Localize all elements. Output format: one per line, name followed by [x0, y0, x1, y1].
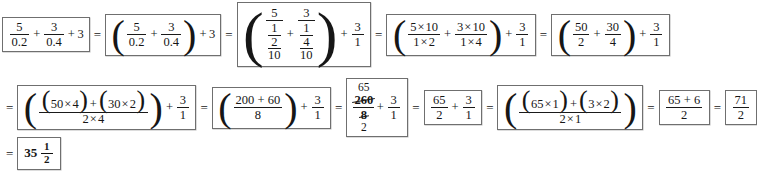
fraction-65-over-2: 65 2 [431, 94, 448, 122]
fraction-3-over-1: 3 1 [388, 94, 400, 122]
numerator: (65×1)+(3×2) [519, 89, 621, 112]
step-box-reduced-fraction-sum: 65 2 + 3 1 [424, 90, 483, 126]
fraction-5-over-0.2: 5 0.2 [127, 21, 147, 49]
denominator: 1 2 10 [266, 21, 283, 62]
numerator: (50×4)+(30×2) [39, 89, 147, 112]
factor-b: 1 [575, 112, 581, 126]
times-sign: × [466, 35, 475, 49]
paren-close: ) [149, 91, 163, 125]
paren-close: ) [284, 91, 298, 125]
plus-sign: + [374, 100, 386, 115]
paren-close: ) [623, 18, 637, 52]
plus-sign: + [449, 100, 461, 115]
numerator: 71 [733, 94, 750, 107]
fraction-expanded-numerator-over-2x1: (65×1)+(3×2) 2×1 [519, 89, 621, 126]
equals-sign: = [196, 101, 211, 114]
fraction-expanded-numerator-over-2x4: (50×4)+(30×2) 2×4 [39, 89, 147, 126]
numerator: 3 [49, 21, 59, 34]
denominator: 1 [389, 108, 399, 121]
plus-sign: + [197, 27, 209, 42]
factor-a: 2 [83, 112, 89, 126]
step-box-cancellation: 65 260 8 2 + 3 1 [346, 78, 408, 137]
solution-row-2: = ( (50×4)+(30×2) 2×4 ) + 3 [2, 78, 757, 137]
equals-sign: = [643, 101, 658, 114]
denominator: 1×2 [411, 35, 437, 48]
plus-sign: + [338, 27, 350, 42]
equals-sign: = [2, 147, 17, 160]
paren-close: ) [183, 18, 197, 52]
fractional-part: 1 2 [41, 141, 53, 166]
denominator: 2 [736, 108, 746, 121]
paren-open: ( [521, 89, 531, 111]
nested-denominator: 4 [303, 36, 309, 49]
denominator: 0.2 [127, 35, 147, 48]
equals-sign: = [2, 101, 17, 114]
paren-open: ( [503, 91, 517, 125]
denominator-cancel-value: 2 [361, 122, 367, 134]
denominator: 1 [464, 108, 474, 121]
nested-denominator: 2 [271, 36, 277, 49]
numerator: 3 [166, 21, 176, 34]
numerator: 3 [651, 21, 661, 34]
plus-sign: + [503, 27, 515, 42]
paren-close: ) [79, 89, 89, 111]
denominator: 2×1 [558, 113, 584, 126]
times-sign: × [566, 112, 575, 126]
factor-a: 30 [108, 97, 121, 111]
addend-term: 3 [209, 27, 215, 42]
plus-sign: + [568, 97, 578, 111]
plus-sign: + [591, 27, 603, 42]
equals-sign: = [482, 101, 497, 114]
denominator: 1 [517, 35, 527, 48]
paren-close: ) [488, 18, 502, 52]
paren-open: ( [98, 89, 108, 111]
paren-open: ( [41, 89, 51, 111]
numerator: 65 [431, 94, 448, 107]
plus-sign: + [442, 27, 454, 42]
plus-sign: + [88, 97, 98, 111]
step-box-decimals-as-fractions: ( 5 1 2 10 + [237, 2, 371, 67]
factor-a: 1 [413, 35, 419, 49]
times-sign: × [594, 97, 603, 111]
factor-a: 2 [560, 112, 566, 126]
paren-open: ( [23, 91, 37, 125]
numerator: 3×10 [455, 21, 487, 34]
numerator: 5 [269, 7, 279, 20]
continued-fraction-5-over-2-tenths: 5 1 2 10 [266, 7, 283, 62]
fraction-3-over-1: 3 1 [463, 94, 475, 122]
times-sign: × [89, 112, 98, 126]
nested-fraction: 1 4 10 [300, 22, 313, 62]
step-box-improper-fraction: 71 2 [725, 90, 757, 126]
numerator: 5×10 [408, 21, 440, 34]
denominator: 0.2 [10, 35, 30, 48]
fraction-50-over-2: 50 2 [573, 21, 590, 49]
solution-row-1: 5 0.2 + 3 0.4 + 3 = ( 5 [2, 2, 670, 67]
solution-row-3: = 35 1 2 [2, 137, 61, 170]
factor-a: 65 [531, 97, 544, 111]
factor-b: 2 [429, 35, 435, 49]
plus-sign: + [31, 27, 43, 42]
nested-fraction: 1 2 10 [268, 22, 281, 62]
denominator: 2×4 [81, 113, 107, 126]
paren-open: ( [243, 8, 265, 61]
plus-sign: + [284, 27, 296, 42]
nested-numerator: 1 [303, 22, 309, 35]
numerator: 200 + 60 [234, 94, 283, 107]
equals-sign: = [408, 101, 423, 114]
numerator: 3 [178, 94, 188, 107]
equals-sign: = [90, 28, 105, 41]
factor-b: 10 [472, 20, 485, 34]
fraction-65plus6-over-2: 65 + 6 2 [666, 94, 702, 122]
step-box-cross-multiply-expansion: ( (65×1)+(3×2) 2×1 ) [497, 85, 643, 130]
paren-open: ( [392, 18, 406, 52]
step-box-final-mixed-number: 35 1 2 [17, 137, 61, 170]
fraction-200plus60-over-8: 200 + 60 8 [234, 94, 283, 122]
fraction-3-over-1: 3 1 [352, 21, 364, 49]
factor-b: 4 [476, 35, 482, 49]
step-box-grouped-expression: ( 5 0.2 + 3 0.4 ) + 3 [105, 14, 221, 56]
denominator-original-struck: 8 [360, 109, 368, 122]
fraction-5-over-0.2: 5 0.2 [10, 21, 30, 49]
addend-term: 3 [77, 27, 83, 42]
denominator: 2 [679, 108, 689, 121]
numerator: 65 + 6 [666, 94, 702, 107]
